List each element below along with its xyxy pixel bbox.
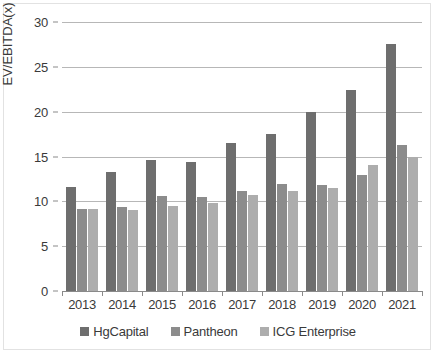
bar-hgcapital-2019 — [306, 112, 316, 291]
x-axis-tick-mark — [382, 291, 383, 296]
bar-group-2018 — [262, 22, 302, 291]
bar-group-2017 — [222, 22, 262, 291]
legend-item-icg-enterprise[interactable]: ICG Enterprise — [260, 324, 356, 339]
x-axis-tick-mark — [222, 291, 223, 296]
bar-hgcapital-2017 — [226, 143, 236, 291]
bar-hgcapital-2020 — [346, 90, 356, 291]
legend-item-label: ICG Enterprise — [273, 324, 356, 339]
bar-group-2016 — [182, 22, 222, 291]
y-axis-tick-label: 5 — [41, 239, 48, 254]
bar-pantheon-2015 — [157, 196, 167, 291]
x-axis-tick-label-2013: 2013 — [62, 297, 102, 312]
x-axis-tick-label-2014: 2014 — [102, 297, 142, 312]
bar-icg-enterprise-2018 — [288, 191, 298, 291]
y-axis-tick-mark — [53, 156, 58, 157]
bar-pantheon-2019 — [317, 185, 327, 291]
legend-swatch-icon — [260, 327, 269, 336]
x-axis-tick-mark — [182, 291, 183, 296]
x-axis-ticks — [62, 291, 422, 296]
bar-pantheon-2016 — [197, 197, 207, 291]
y-axis-tick-label: 0 — [41, 284, 48, 299]
x-axis-tick-labels: 201320142015201620172018201920202021 — [62, 297, 422, 312]
bar-icg-enterprise-2020 — [368, 165, 378, 291]
y-axis-tick-mark — [53, 22, 58, 23]
legend-item-pantheon[interactable]: Pantheon — [171, 324, 238, 339]
bar-pantheon-2020 — [357, 175, 367, 291]
bar-hgcapital-2016 — [186, 162, 196, 291]
bar-hgcapital-2015 — [146, 160, 156, 291]
x-axis-tick-label-2015: 2015 — [142, 297, 182, 312]
bar-icg-enterprise-2015 — [168, 206, 178, 291]
x-axis-tick-mark — [102, 291, 103, 296]
x-axis-tick-mark — [342, 291, 343, 296]
x-axis-tick-label-2021: 2021 — [382, 297, 422, 312]
y-axis-tick-mark — [53, 111, 58, 112]
y-axis-tick-label: 20 — [34, 104, 48, 119]
bar-groups — [62, 22, 422, 291]
y-axis-tick-mark — [53, 201, 58, 202]
y-axis-tick-mark — [53, 66, 58, 67]
y-axis-tick-labels: 051015202530 — [4, 22, 58, 291]
x-axis-tick-mark — [62, 291, 63, 296]
y-axis-tick-mark — [53, 246, 58, 247]
x-axis-tick-label-2018: 2018 — [262, 297, 302, 312]
x-axis-tick-mark — [422, 291, 423, 296]
y-axis-tick-label: 25 — [34, 59, 48, 74]
bar-icg-enterprise-2016 — [208, 203, 218, 291]
plot-area — [62, 22, 422, 291]
x-axis-tick-mark — [302, 291, 303, 296]
y-axis-tick-mark — [53, 291, 58, 292]
legend-item-label: Pantheon — [184, 324, 238, 339]
x-axis-tick-label-2019: 2019 — [302, 297, 342, 312]
legend-item-label: HgCapital — [93, 324, 148, 339]
legend-item-hgcapital[interactable]: HgCapital — [80, 324, 148, 339]
bar-icg-enterprise-2013 — [88, 209, 98, 291]
y-axis-tick-label: 30 — [34, 15, 48, 30]
bar-pantheon-2018 — [277, 184, 287, 291]
bar-icg-enterprise-2014 — [128, 210, 138, 291]
bar-hgcapital-2021 — [386, 44, 396, 291]
bar-group-2013 — [62, 22, 102, 291]
bar-hgcapital-2013 — [66, 187, 76, 291]
bar-group-2019 — [302, 22, 342, 291]
chart-container: EV/EBITDA(x) 051015202530 20132014201520… — [3, 3, 431, 350]
bar-pantheon-2021 — [397, 145, 407, 291]
bar-icg-enterprise-2017 — [248, 195, 258, 291]
chart-legend: HgCapitalPantheonICG Enterprise — [4, 324, 432, 339]
bar-icg-enterprise-2019 — [328, 188, 338, 291]
bar-group-2014 — [102, 22, 142, 291]
bar-pantheon-2017 — [237, 191, 247, 291]
bar-hgcapital-2014 — [106, 172, 116, 291]
x-axis-tick-label-2017: 2017 — [222, 297, 262, 312]
legend-swatch-icon — [171, 327, 180, 336]
x-axis-tick-label-2020: 2020 — [342, 297, 382, 312]
bar-hgcapital-2018 — [266, 134, 276, 291]
legend-swatch-icon — [80, 327, 89, 336]
bar-icg-enterprise-2021 — [408, 157, 418, 291]
x-axis-tick-label-2016: 2016 — [182, 297, 222, 312]
bar-group-2020 — [342, 22, 382, 291]
bar-group-2021 — [382, 22, 422, 291]
bar-pantheon-2013 — [77, 209, 87, 291]
y-axis-tick-label: 10 — [34, 194, 48, 209]
x-axis-tick-mark — [262, 291, 263, 296]
bar-pantheon-2014 — [117, 207, 127, 291]
y-axis-tick-label: 15 — [34, 149, 48, 164]
x-axis-tick-mark — [142, 291, 143, 296]
bar-group-2015 — [142, 22, 182, 291]
